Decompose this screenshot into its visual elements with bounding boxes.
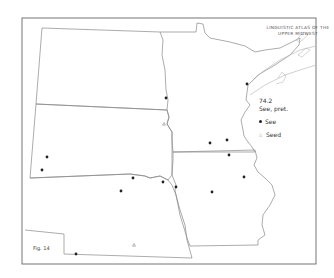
see-point bbox=[165, 97, 168, 100]
map-frame bbox=[22, 18, 316, 264]
see-point bbox=[75, 253, 78, 256]
see-point bbox=[226, 139, 229, 142]
see-point bbox=[211, 191, 214, 194]
state-iowa bbox=[172, 150, 275, 246]
legend-entry-seed: △ Seed bbox=[259, 129, 288, 140]
dot-symbol-icon bbox=[259, 120, 262, 123]
see-point bbox=[162, 181, 165, 184]
see-point bbox=[228, 154, 231, 157]
legend-entry-see: See bbox=[259, 116, 288, 127]
legend-heading: See, pret. bbox=[259, 103, 288, 114]
legend-entry-label: See bbox=[265, 116, 276, 127]
atlas-title-line2: UPPER MIDWEST bbox=[258, 31, 334, 37]
points-see bbox=[41, 83, 249, 256]
legend-entry-label: Seed bbox=[266, 129, 281, 140]
keweenaw-peninsula bbox=[276, 72, 286, 84]
see-point bbox=[175, 186, 178, 189]
state-nebraska bbox=[25, 174, 192, 258]
see-point bbox=[132, 177, 135, 180]
points-seed bbox=[133, 123, 166, 247]
atlas-title: LINGUISTIC ATLAS OF THE UPPER MIDWEST bbox=[258, 25, 334, 37]
map-legend: 74.2 See, pret. See △ Seed bbox=[259, 95, 288, 140]
state-south-dakota bbox=[30, 104, 172, 180]
state-north-dakota bbox=[36, 28, 168, 110]
see-point bbox=[209, 142, 212, 145]
figure-label: Fig. 14 bbox=[33, 245, 50, 251]
see-point bbox=[243, 176, 246, 179]
see-point bbox=[41, 169, 44, 172]
triangle-symbol-icon: △ bbox=[259, 129, 263, 140]
see-point bbox=[246, 83, 249, 86]
seed-point bbox=[133, 244, 136, 247]
see-point bbox=[120, 190, 123, 193]
seed-point bbox=[163, 123, 166, 126]
see-point bbox=[46, 156, 49, 159]
